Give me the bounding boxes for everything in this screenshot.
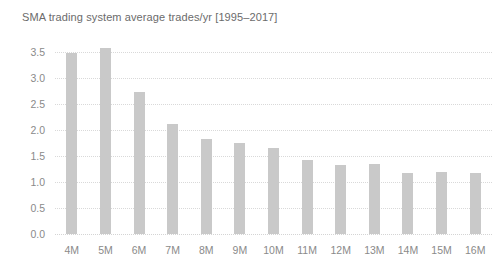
bar (66, 53, 77, 234)
x-axis-tick-label: 11M (297, 244, 317, 256)
bar (201, 139, 212, 234)
x-axis-tick-label: 13M (364, 244, 384, 256)
plot-area (55, 39, 492, 234)
x-axis-tick-label: 8M (199, 244, 214, 256)
x-axis-tick-label: 6M (132, 244, 147, 256)
y-axis-tick-label: 3.0 (30, 72, 45, 84)
x-axis-tick-label: 14M (398, 244, 418, 256)
bar (302, 160, 313, 234)
y-axis-tick-label: 1.0 (30, 176, 45, 188)
x-axis: 4M5M6M7M8M9M10M11M12M13M14M15M16M (55, 234, 492, 264)
x-axis-tick-label: 10M (263, 244, 283, 256)
bar (268, 148, 279, 234)
y-axis-tick-label: 2.0 (30, 124, 45, 136)
bar (402, 173, 413, 234)
x-axis-tick-label: 12M (331, 244, 351, 256)
y-axis-tick-label: 2.5 (30, 98, 45, 110)
x-axis-tick-label: 16M (465, 244, 485, 256)
y-axis-tick-label: 0.0 (30, 228, 45, 240)
x-axis-tick-label: 15M (431, 244, 451, 256)
bar (167, 124, 178, 234)
bar (234, 143, 245, 234)
chart-title: SMA trading system average trades/yr [19… (22, 10, 278, 24)
x-axis-tick-label: 4M (65, 244, 80, 256)
y-axis-tick-label: 1.5 (30, 150, 45, 162)
bar (335, 165, 346, 234)
x-axis-tick-label: 7M (165, 244, 180, 256)
x-axis-tick-label: 5M (98, 244, 113, 256)
y-axis-tick-label: 3.5 (30, 46, 45, 58)
bar (436, 172, 447, 234)
y-axis-tick-label: 0.5 (30, 202, 45, 214)
y-axis: 0.00.51.01.52.02.53.03.5 (0, 0, 55, 275)
bar (369, 164, 380, 234)
bars-group (55, 39, 492, 234)
bar (134, 92, 145, 234)
bar (470, 173, 481, 234)
bar (100, 48, 111, 234)
x-axis-tick-label: 9M (233, 244, 248, 256)
bar-chart: SMA trading system average trades/yr [19… (0, 0, 503, 275)
